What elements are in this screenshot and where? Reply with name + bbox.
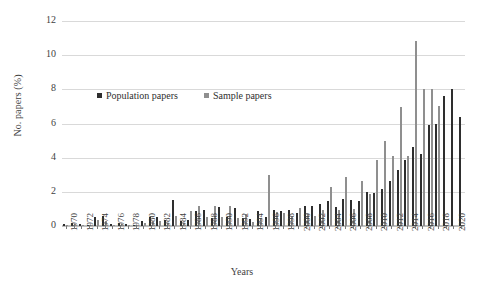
- bar-group: [349, 21, 357, 226]
- bar-group: [318, 21, 326, 226]
- bar-sample: [345, 177, 347, 226]
- bar-group: [333, 21, 341, 226]
- bar-group: [124, 21, 132, 226]
- bar-sample: [237, 218, 239, 226]
- bar-group: [116, 21, 124, 226]
- x-axis-tick-mark: [260, 226, 261, 229]
- x-axis-tick-mark: [430, 226, 431, 229]
- x-axis-tick-mark: [74, 226, 75, 229]
- bar-group: [101, 21, 109, 226]
- x-axis-tick-mark: [198, 226, 199, 229]
- bar-group: [357, 21, 365, 226]
- bar-sample: [361, 181, 363, 226]
- bar-group: [225, 21, 233, 226]
- x-axis-tick-mark: [89, 226, 90, 229]
- bar-group: [380, 21, 388, 226]
- x-axis-tick-mark: [252, 226, 253, 229]
- x-axis-tick-mark: [190, 226, 191, 229]
- x-axis-tick-mark: [329, 226, 330, 229]
- x-axis-tick-mark: [384, 226, 385, 229]
- x-axis-tick-mark: [415, 226, 416, 229]
- bar-group: [295, 21, 303, 226]
- bar-population: [327, 201, 329, 226]
- bar-population: [172, 200, 174, 226]
- bar-group: [395, 21, 403, 226]
- x-axis-tick-mark: [221, 226, 222, 229]
- bar-group: [264, 21, 272, 226]
- x-axis-tick-mark: [368, 226, 369, 229]
- bar-group: [450, 21, 458, 226]
- x-axis-tick-mark: [322, 226, 323, 229]
- bar-population: [234, 208, 236, 226]
- bar-sample: [190, 211, 192, 226]
- x-axis-tick-mark: [267, 226, 268, 229]
- bar-population: [443, 96, 445, 226]
- x-axis-tick-mark: [143, 226, 144, 229]
- x-axis-tick-mark: [97, 226, 98, 229]
- x-axis-title: Years: [0, 266, 484, 277]
- x-axis-tick-mark: [159, 226, 160, 229]
- bar-group: [364, 21, 372, 226]
- x-axis-tick-mark: [112, 226, 113, 229]
- bar-sample: [314, 216, 316, 226]
- legend-swatch-icon: [97, 93, 102, 98]
- bar-group: [279, 21, 287, 226]
- x-axis-tick-mark: [236, 226, 237, 229]
- bar-population: [451, 89, 453, 226]
- x-axis-ticks: 1970197219741976197819801982198419861988…: [62, 226, 465, 266]
- bar-group: [326, 21, 334, 226]
- bar-sample: [431, 89, 433, 226]
- bar-group: [248, 21, 256, 226]
- x-axis-tick-mark: [306, 226, 307, 229]
- bar-group: [457, 21, 465, 226]
- x-axis-tick-mark: [167, 226, 168, 229]
- bar-group: [372, 21, 380, 226]
- x-axis-tick-mark: [422, 226, 423, 229]
- x-axis-tick-mark: [66, 226, 67, 229]
- bar-group: [419, 21, 427, 226]
- bar-population: [435, 124, 437, 227]
- x-axis-tick-mark: [453, 226, 454, 229]
- x-axis-tick-mark: [446, 226, 447, 229]
- x-axis-tick-mark: [314, 226, 315, 229]
- y-axis-title: No. papers (%): [12, 46, 23, 166]
- bar-group: [341, 21, 349, 226]
- bar-group: [85, 21, 93, 226]
- x-axis-tick-mark: [360, 226, 361, 229]
- bar-sample: [423, 89, 425, 226]
- bar-sample: [438, 106, 440, 226]
- bar-population: [296, 213, 298, 226]
- bar-sample: [221, 217, 223, 226]
- bar-sample: [206, 217, 208, 226]
- bar-group: [109, 21, 117, 226]
- bar-group: [132, 21, 140, 226]
- bar-sample: [283, 213, 285, 226]
- bar-group: [62, 21, 70, 226]
- bar-group: [155, 21, 163, 226]
- bar-sample: [268, 175, 270, 226]
- x-axis-tick-mark: [353, 226, 354, 229]
- bar-group: [287, 21, 295, 226]
- y-axis-tick-label: 4: [26, 151, 56, 162]
- bar-sample: [392, 156, 394, 226]
- bar-group: [186, 21, 194, 226]
- bar-sample: [376, 160, 378, 226]
- x-axis-tick-mark: [136, 226, 137, 229]
- bar-population: [459, 117, 461, 226]
- x-axis-tick-mark: [244, 226, 245, 229]
- bars-layer: [62, 21, 465, 226]
- bar-population: [358, 201, 360, 226]
- x-axis-tick-mark: [438, 226, 439, 229]
- legend-label-sample: Sample papers: [213, 90, 272, 101]
- bar-chart: No. papers (%) 024681012 197019721974197…: [0, 0, 484, 287]
- bar-group: [140, 21, 148, 226]
- x-axis-tick-mark: [151, 226, 152, 229]
- legend-item-population: Population papers: [97, 90, 178, 101]
- x-axis-tick-mark: [205, 226, 206, 229]
- bar-sample: [400, 107, 402, 226]
- y-axis-tick-label: 12: [26, 14, 56, 25]
- x-axis-tick-mark: [81, 226, 82, 229]
- legend-item-sample: Sample papers: [204, 90, 272, 101]
- x-axis-tick-mark: [345, 226, 346, 229]
- x-axis-tick-mark: [229, 226, 230, 229]
